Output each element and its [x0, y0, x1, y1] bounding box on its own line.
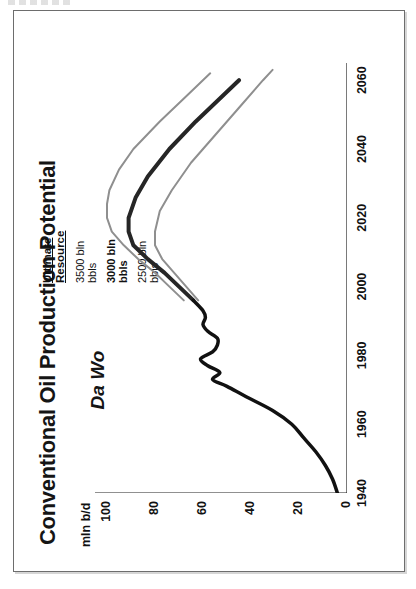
x-tick-label: 2000 — [355, 271, 369, 303]
y-tick-label: 40 — [243, 501, 257, 527]
x-tick-label: 2060 — [355, 64, 369, 96]
y-tick-label: 20 — [291, 501, 305, 527]
x-tick-label: 1960 — [355, 408, 369, 440]
figure-frame: Conventional Oil Production Potential Da… — [13, 10, 405, 572]
y-tick-label: 100 — [99, 501, 113, 527]
chart-stage: Conventional Oil Production Potential Da… — [33, 31, 385, 551]
x-tick-label: 2020 — [355, 202, 369, 234]
scan-edge-artifact — [8, 0, 70, 5]
x-tick-label: 1980 — [355, 339, 369, 371]
y-tick-label: 0 — [339, 501, 353, 527]
x-tick-label: 1940 — [355, 477, 369, 509]
legend-title: Ultimate Resource — [41, 123, 67, 283]
legend-title-line1: Ultimate — [41, 238, 53, 283]
x-tick-label: 2040 — [355, 133, 369, 165]
y-tick-label: 60 — [195, 501, 209, 527]
y-axis-label: mln b/d — [79, 503, 93, 547]
legend-item-3500-line1: 3500 bln — [74, 241, 86, 283]
plot-svg — [95, 63, 347, 493]
legend-title-line2: Resource — [54, 231, 66, 283]
y-tick-label: 80 — [147, 501, 161, 527]
plot-area: 1940196019802000202020402060020406080100 — [95, 63, 347, 493]
